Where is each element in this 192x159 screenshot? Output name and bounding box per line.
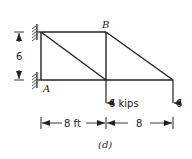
- wall-support-top: [32, 24, 41, 41]
- load-middle: 6 kips: [106, 80, 139, 109]
- wall-support-bottom: [32, 72, 41, 89]
- load-right: 6: [173, 80, 182, 109]
- joint-label-b: B: [101, 19, 109, 30]
- figure-caption: (d): [98, 139, 112, 150]
- dimension-label-left: 8 ft: [64, 118, 81, 129]
- load-label-right: 6: [176, 98, 182, 109]
- dimension-horizontal: 8 ft 8: [41, 117, 173, 129]
- joint-label-a: A: [42, 83, 50, 94]
- dimension-label-vertical: 6: [16, 51, 22, 62]
- truss-diagram: B A 6 kips 6 6 8 ft 8 (d): [0, 0, 192, 159]
- dimension-vertical: 6: [14, 32, 24, 80]
- dimension-label-right: 8: [136, 118, 142, 129]
- member-right-diagonal: [106, 32, 173, 80]
- truss-members: [41, 32, 173, 80]
- member-left-diagonal: [41, 32, 106, 80]
- load-label-middle: 6 kips: [109, 98, 139, 109]
